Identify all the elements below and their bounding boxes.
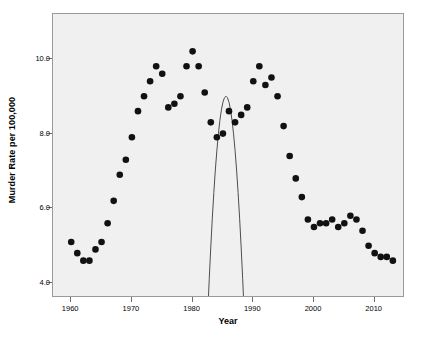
x-tick-mark: [374, 297, 375, 302]
x-axis-title: Year: [52, 316, 404, 326]
x-tick-label: 1980: [172, 304, 212, 313]
x-tick-mark: [131, 297, 132, 302]
x-tick-mark: [313, 297, 314, 302]
x-tick-mark: [192, 297, 193, 302]
x-tick-label: 2000: [293, 304, 333, 313]
x-tick-label: 2010: [354, 304, 394, 313]
x-tick-mark: [70, 297, 71, 302]
murder-rate-scatter-chart: Murder Rate per 100,000 4.06.08.010.0 19…: [0, 0, 422, 346]
x-tick-label: 1990: [232, 304, 272, 313]
x-tick-mark: [252, 297, 253, 302]
x-tick-label: 1960: [50, 304, 90, 313]
x-axis-ticks: 196019701980199020002010: [0, 0, 422, 346]
x-tick-label: 1970: [111, 304, 151, 313]
